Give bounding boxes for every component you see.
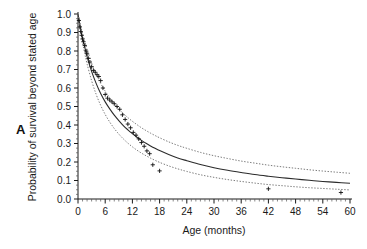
y-tick-label: 0.7 [57,64,71,75]
observed-point [142,144,146,148]
y-tick-label: 0.1 [57,175,71,186]
x-tick-label: 36 [236,206,248,217]
x-tick-label: 60 [344,206,356,217]
observed-points-group [77,18,343,194]
series-confidence-band [78,14,350,190]
observed-point [99,79,103,83]
x-tick-label: 48 [290,206,302,217]
series-confidence-band [78,14,350,183]
y-tick-label: 1.0 [57,9,71,20]
observed-point [123,117,127,121]
survival-curve-figure: A Probability of survival beyond stated … [0,0,367,249]
series-confidence-band [78,14,350,173]
x-tick-label: 0 [75,206,81,217]
y-axis-label: Probability of survival beyond stated ag… [26,12,38,202]
x-tick-label: 6 [102,206,108,217]
y-tick-label: 0.5 [57,101,71,112]
curves-group [78,14,350,190]
observed-point [77,18,81,22]
x-tick-label: 12 [127,206,139,217]
observed-point [134,133,138,137]
observed-point [145,149,149,153]
x-tick-group: 06121824303642485460 [75,199,356,217]
x-axis-label: Age (months) [78,224,350,236]
panel-label-a: A [16,122,26,137]
observed-point [79,29,83,33]
axes-group [78,12,352,199]
y-tick-label: 0.4 [57,120,71,131]
observed-point [120,113,124,117]
y-tick-label: 0.9 [57,27,71,38]
x-tick-label: 30 [208,206,220,217]
x-tick-label: 54 [317,206,329,217]
observed-point [151,163,155,167]
y-tick-group: 0.00.10.20.30.40.50.60.70.80.91.0 [57,9,78,205]
observed-point [148,152,152,156]
observed-point [128,126,132,130]
x-tick-label: 18 [154,206,166,217]
observed-point [158,169,162,173]
observed-point [339,190,343,194]
y-tick-label: 0.0 [57,194,71,205]
x-tick-label: 42 [263,206,275,217]
plot-canvas: 0.00.10.20.30.40.50.60.70.80.91.0 061218… [0,0,367,249]
observed-point [101,86,105,90]
y-tick-label: 0.6 [57,83,71,94]
y-tick-label: 0.8 [57,46,71,57]
observed-point [80,33,84,37]
y-tick-label: 0.3 [57,138,71,149]
observed-point [266,187,270,191]
observed-point [81,40,85,44]
y-tick-label: 0.2 [57,157,71,168]
observed-point [126,122,130,126]
x-tick-label: 24 [181,206,193,217]
